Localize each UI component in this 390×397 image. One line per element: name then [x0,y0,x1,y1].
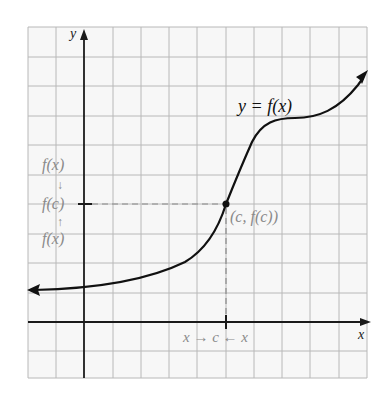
fc-label: f(c) [42,195,64,213]
fx-bottom-label: f(x) [42,230,64,248]
point-c-fc [223,201,230,208]
x-axis-label: x [357,327,365,342]
arrow-down-icon: ↓ [57,178,63,192]
curve-label: y = f(x) [236,96,292,117]
point-label: (c, f(c)) [230,208,278,226]
fx-top-label: f(x) [42,156,64,174]
y-axis-label: y [68,26,77,41]
arrow-up-icon: ↑ [57,215,63,229]
limit-diagram: y x y = f(x) (c, f(c)) x → c ← x f(x) ↓ … [0,0,390,397]
x-limit-annotation: x → c ← x [182,329,248,345]
